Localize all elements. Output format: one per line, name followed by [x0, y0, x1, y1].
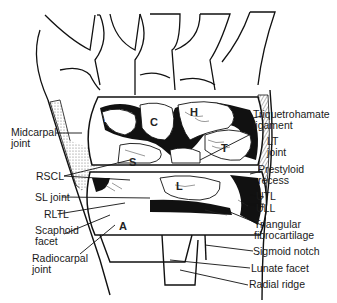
label-rltl: RLTL — [44, 209, 69, 220]
bone-label-b: B — [104, 112, 112, 124]
label-utl: UTL — [256, 191, 276, 202]
label-sl-joint: SL joint — [35, 192, 70, 203]
bone-label-a: A — [119, 220, 127, 232]
label-scaphoid-facet: Scaphoid facet — [35, 225, 79, 247]
label-triquetrohamate-ligament: Triquetrohamate ligament — [253, 109, 330, 131]
label-rscl: RSCL — [36, 171, 64, 182]
label-sigmoid-notch: Sigmoid notch — [253, 246, 320, 257]
bone-label-t: T — [221, 142, 228, 154]
bone-label-h: H — [190, 106, 198, 118]
label-lt-joint: LT joint — [267, 136, 286, 158]
label-prestyloid-recess: Prestyloid recess — [258, 164, 304, 186]
label-triangular-fibrocartilage: Triangular fibrocartilage — [254, 219, 314, 241]
bone-label-s: S — [129, 156, 136, 168]
metacarpals — [36, 12, 275, 100]
label-lunate-facet: Lunate facet — [251, 263, 309, 274]
label-radial-ridge: Radial ridge — [249, 279, 305, 290]
bone-label-l: L — [176, 180, 183, 192]
label-ull: ULL — [256, 203, 275, 214]
label-midcarpal-joint: Midcarpal joint — [11, 127, 57, 149]
midcarpal-window — [88, 97, 263, 165]
bone-label-c: C — [150, 116, 158, 128]
label-radiocarpal-joint: Radiocarpal joint — [32, 253, 88, 275]
radius-outline — [100, 235, 206, 285]
